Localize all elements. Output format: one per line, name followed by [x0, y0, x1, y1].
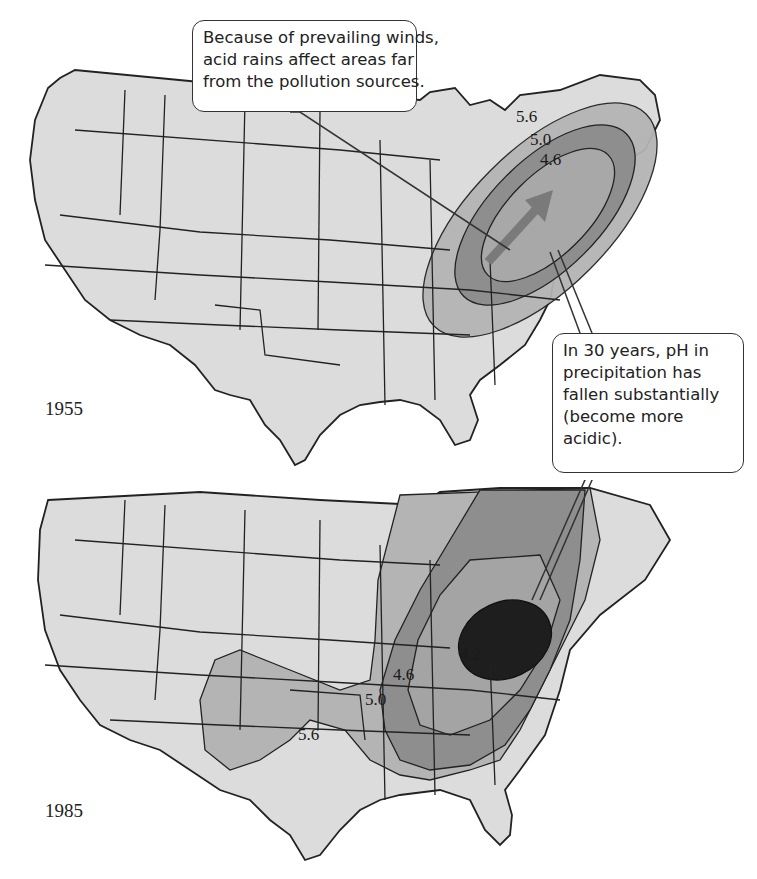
year-label-1955: 1955: [45, 398, 83, 420]
isoline-label-5.0: 5.0: [530, 130, 551, 149]
callout-line: acidic).: [563, 428, 733, 450]
callout-line: Because of prevailing winds,: [203, 27, 406, 49]
callout-line: fallen substantially: [563, 384, 733, 406]
isoline-label-5.0: 5.0: [365, 690, 386, 709]
us-map-1985: 5.6 5.0 4.6 4.2: [0, 480, 757, 879]
callout-line: (become more: [563, 406, 733, 428]
isoline-label-4.6: 4.6: [540, 150, 561, 169]
callout-line: In 30 years, pH in: [563, 340, 733, 362]
map-1985: 5.6 5.0 4.6 4.2 1985: [0, 480, 757, 879]
callout-line: acid rains affect areas far: [203, 49, 406, 71]
isoline-label-5.6: 5.6: [298, 725, 319, 744]
isoline-label-5.6: 5.6: [516, 107, 537, 126]
callout-line: precipitation has: [563, 362, 733, 384]
isoline-label-4.6: 4.6: [393, 665, 414, 684]
callout-line: from the pollution sources.: [203, 71, 406, 93]
year-label-1985: 1985: [45, 800, 83, 822]
isoline-label-4.2: 4.2: [460, 645, 481, 664]
callout-prevailing-winds: Because of prevailing winds, acid rains …: [192, 20, 417, 112]
callout-ph-change: In 30 years, pH in precipitation has fal…: [552, 333, 744, 473]
